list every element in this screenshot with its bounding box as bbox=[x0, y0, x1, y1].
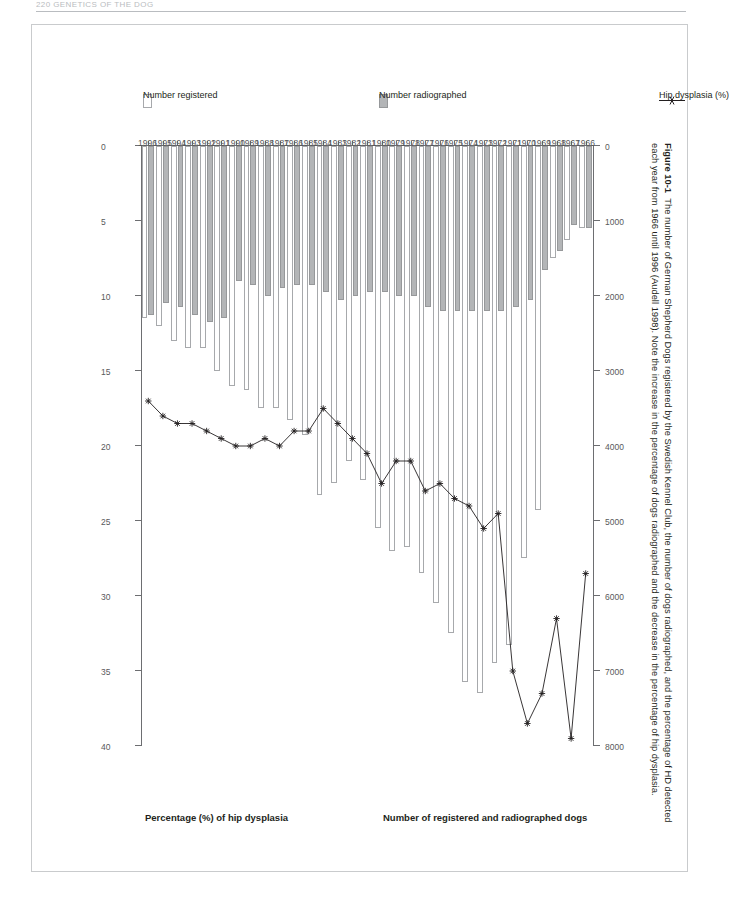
axis-top-tick-label: 25 bbox=[101, 517, 110, 527]
axis-bottom-tick bbox=[594, 445, 600, 446]
axis-bottom-tick-label: 1000 bbox=[605, 217, 624, 227]
data-point-marker bbox=[364, 450, 370, 456]
axis-top-tick-label: 10 bbox=[101, 292, 110, 302]
axis-bottom-tick-label: 8000 bbox=[605, 742, 624, 752]
data-point-marker bbox=[568, 735, 574, 741]
data-point-marker bbox=[349, 435, 355, 441]
axis-top-tick-label: 15 bbox=[101, 367, 110, 377]
data-point-marker bbox=[393, 458, 399, 464]
chart-canvas: Percentage (%) of hip dysplasia Number o… bbox=[83, 60, 643, 850]
axis-bottom-tick-label: 3000 bbox=[605, 367, 624, 377]
data-point-marker bbox=[437, 480, 443, 486]
axis-bottom-tick bbox=[594, 370, 600, 371]
axis-bottom-tick bbox=[594, 295, 600, 296]
hip-dysplasia-line bbox=[141, 146, 594, 746]
data-point-marker bbox=[335, 420, 341, 426]
figure-frame: Percentage (%) of hip dysplasia Number o… bbox=[31, 24, 688, 872]
data-point-marker bbox=[233, 443, 239, 449]
data-point-marker bbox=[218, 435, 224, 441]
axis-top-tick-label: 35 bbox=[101, 667, 110, 677]
axis-bottom-tick-label: 4000 bbox=[605, 442, 624, 452]
figure-caption: Figure 10-1 The number of German Shepher… bbox=[648, 143, 675, 833]
data-point-marker bbox=[553, 615, 559, 621]
axis-top-tick-label: 40 bbox=[101, 742, 110, 752]
axis-bottom-tick-label: 6000 bbox=[605, 592, 624, 602]
data-point-marker bbox=[189, 420, 195, 426]
running-head-rule bbox=[36, 11, 686, 12]
axis-top-tick-label: 30 bbox=[101, 592, 110, 602]
legend-label-registered: Number registered bbox=[143, 90, 218, 100]
data-point-marker bbox=[510, 668, 516, 674]
axis-bottom-tick-label: 5000 bbox=[605, 517, 624, 527]
data-point-marker bbox=[495, 510, 501, 516]
legend-label-radiographed: Number radiographed bbox=[379, 90, 467, 100]
figure-label: Figure 10-1 bbox=[663, 143, 674, 193]
data-point-marker bbox=[408, 458, 414, 464]
axis-title-number: Number of registered and radiographed do… bbox=[383, 812, 587, 823]
data-point-marker bbox=[422, 488, 428, 494]
chart-legend: Number registered Number radiographed Hi… bbox=[143, 68, 593, 108]
axis-bottom-tick-label: 0 bbox=[605, 142, 610, 152]
axis-title-percentage: Percentage (%) of hip dysplasia bbox=[145, 812, 288, 823]
data-point-marker bbox=[174, 420, 180, 426]
data-point-marker bbox=[378, 480, 384, 486]
data-point-marker bbox=[305, 428, 311, 434]
data-point-marker bbox=[160, 413, 166, 419]
axis-bottom-tick bbox=[594, 220, 600, 221]
axis-bottom-tick bbox=[594, 745, 600, 746]
data-point-marker bbox=[247, 443, 253, 449]
axis-bottom-tick bbox=[594, 520, 600, 521]
data-point-marker bbox=[320, 405, 326, 411]
axis-top-tick-label: 20 bbox=[101, 442, 110, 452]
axis-bottom-tick bbox=[594, 670, 600, 671]
data-point-marker bbox=[262, 435, 268, 441]
data-point-marker bbox=[480, 525, 486, 531]
data-point-marker bbox=[466, 503, 472, 509]
data-point-marker bbox=[524, 720, 530, 726]
figure-caption-text: The number of German Shepherd Dogs regis… bbox=[650, 143, 674, 823]
data-point-marker bbox=[451, 495, 457, 501]
data-point-marker bbox=[145, 398, 151, 404]
data-point-marker bbox=[583, 570, 589, 576]
axis-bottom-tick-label: 7000 bbox=[605, 667, 624, 677]
data-point-marker bbox=[203, 428, 209, 434]
legend-label-hip-dysplasia: Hip dysplasia (%) bbox=[659, 90, 729, 100]
axis-bottom-tick-label: 2000 bbox=[605, 292, 624, 302]
axis-top-tick-label: 0 bbox=[101, 142, 106, 152]
data-point-marker bbox=[291, 428, 297, 434]
data-point-marker bbox=[539, 690, 545, 696]
axis-top-tick-label: 5 bbox=[101, 217, 106, 227]
data-point-marker bbox=[276, 443, 282, 449]
axis-bottom-tick bbox=[594, 595, 600, 596]
